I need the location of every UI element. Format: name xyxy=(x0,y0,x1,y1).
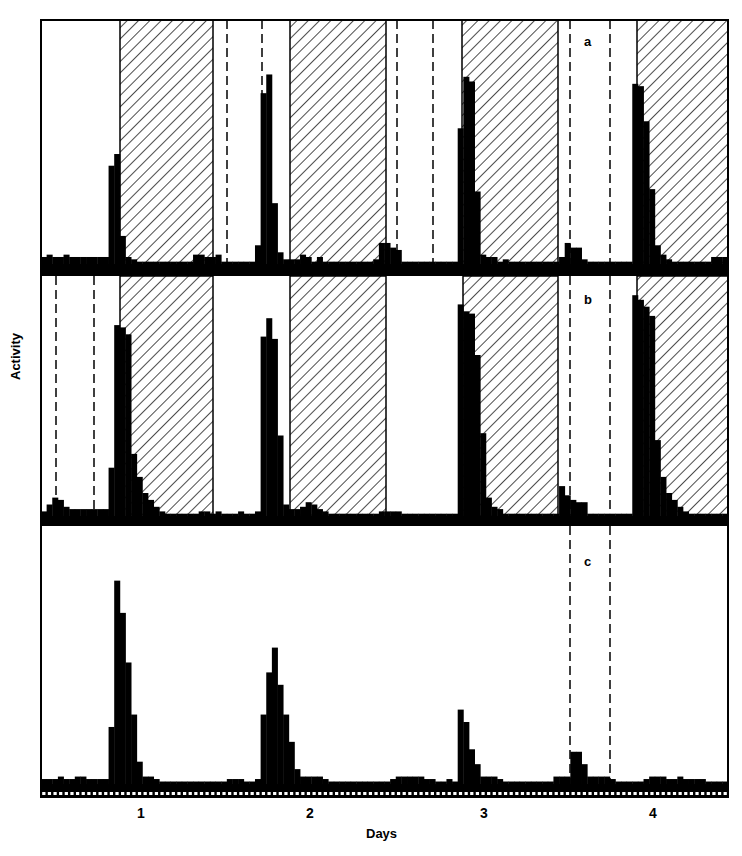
histogram-bar xyxy=(278,685,284,784)
histogram-bar xyxy=(542,782,548,784)
histogram-bar xyxy=(717,782,723,784)
hour-tick xyxy=(115,792,118,795)
histogram-bar xyxy=(171,514,177,516)
histogram-bar xyxy=(272,648,278,784)
histogram-bar xyxy=(204,782,210,784)
histogram-bar xyxy=(261,337,267,516)
histogram-bar xyxy=(407,514,413,516)
histogram-bar xyxy=(362,514,368,516)
hour-tick xyxy=(662,792,665,795)
histogram-bar xyxy=(587,777,593,784)
histogram-bar xyxy=(497,509,503,516)
histogram-bar xyxy=(92,509,98,516)
histogram-bar xyxy=(187,262,193,264)
hour-tick xyxy=(110,792,113,795)
hour-tick xyxy=(374,792,377,795)
hour-tick xyxy=(645,792,648,795)
histogram-bar xyxy=(413,262,419,264)
hour-tick xyxy=(403,792,406,795)
hour-tick xyxy=(87,792,90,795)
histogram-bar xyxy=(216,255,222,264)
histogram-bar xyxy=(514,262,520,264)
panel-baseline xyxy=(41,784,728,790)
histogram-bar xyxy=(559,777,565,784)
histogram-bar xyxy=(255,245,261,264)
histogram-bar xyxy=(232,514,238,516)
hour-tick xyxy=(650,792,653,795)
hour-tick xyxy=(526,792,529,795)
histogram-bar xyxy=(92,779,98,784)
hour-tick xyxy=(160,792,163,795)
histogram-bar xyxy=(97,779,103,784)
histogram-bar xyxy=(86,779,92,784)
hour-tick xyxy=(504,792,507,795)
histogram-bar xyxy=(537,514,543,516)
hour-tick xyxy=(622,792,625,795)
day-tick-label-2: 2 xyxy=(300,805,320,821)
histogram-bar xyxy=(216,782,222,784)
histogram-bar xyxy=(418,262,424,264)
hour-tick xyxy=(673,792,676,795)
histogram-bar xyxy=(97,509,103,516)
histogram-bar xyxy=(362,262,368,264)
hour-tick xyxy=(510,792,513,795)
histogram-bar xyxy=(154,779,160,784)
histogram-bar xyxy=(660,255,666,264)
histogram-bar xyxy=(142,262,148,264)
hour-tick xyxy=(724,792,727,795)
histogram-bar xyxy=(221,262,227,264)
hour-tick xyxy=(217,792,220,795)
hour-tick xyxy=(256,792,259,795)
histogram-bar xyxy=(520,262,526,264)
histogram-bar xyxy=(621,782,627,784)
histogram-bar xyxy=(339,514,345,516)
hour-tick xyxy=(560,792,563,795)
histogram-bar xyxy=(193,255,199,264)
histogram-bar xyxy=(345,514,351,516)
histogram-bar xyxy=(80,777,86,784)
histogram-bar xyxy=(435,514,441,516)
hour-tick xyxy=(177,792,180,795)
histogram-bar xyxy=(317,509,323,516)
histogram-bar xyxy=(396,777,402,784)
histogram-bar xyxy=(463,722,469,784)
histogram-bar xyxy=(306,777,312,784)
hour-tick xyxy=(667,792,670,795)
histogram-bar xyxy=(272,339,278,516)
histogram-bar xyxy=(368,262,374,264)
histogram-bar xyxy=(103,779,109,784)
histogram-bar xyxy=(576,502,582,516)
hour-tick xyxy=(149,792,152,795)
histogram-bar xyxy=(497,262,503,264)
histogram-bar xyxy=(80,509,86,516)
histogram-bar xyxy=(711,514,717,516)
histogram-bar xyxy=(103,509,109,516)
histogram-bar xyxy=(520,514,526,516)
histogram-bar xyxy=(632,295,638,516)
histogram-bar xyxy=(137,762,143,784)
histogram-bar xyxy=(125,662,131,784)
histogram-bar xyxy=(615,514,621,516)
histogram-bar xyxy=(565,243,571,264)
histogram-bar xyxy=(300,777,306,784)
panel-label-c: c xyxy=(584,554,591,569)
hour-tick xyxy=(144,792,147,795)
histogram-bar xyxy=(610,514,616,516)
histogram-bar xyxy=(283,505,289,517)
hour-tick xyxy=(572,792,575,795)
dark-period-shading xyxy=(290,20,386,272)
hour-tick xyxy=(239,792,242,795)
histogram-bar xyxy=(424,779,430,784)
hour-tick xyxy=(543,792,546,795)
histogram-bar xyxy=(221,514,227,516)
histogram-bar xyxy=(615,262,621,264)
histogram-bar xyxy=(154,507,160,516)
histogram-bar xyxy=(294,769,300,784)
histogram-bar xyxy=(582,259,588,264)
histogram-bar xyxy=(148,262,154,264)
histogram-bar xyxy=(171,782,177,784)
histogram-bar xyxy=(339,782,345,784)
hour-tick xyxy=(93,792,96,795)
histogram-bar xyxy=(424,514,430,516)
histogram-bar xyxy=(131,715,137,784)
